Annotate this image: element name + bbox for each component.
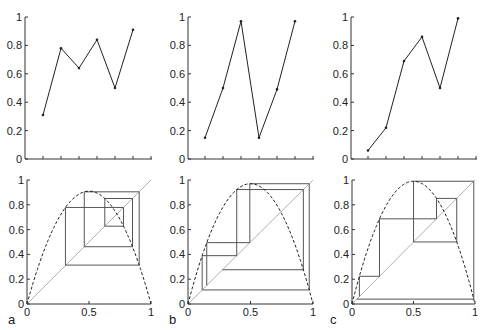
data-point <box>96 38 99 41</box>
y-tick-label: 0.4 <box>333 96 348 108</box>
y-tick-label: 0.4 <box>334 248 349 260</box>
panel-label-c: c <box>330 312 337 327</box>
time-series-panel-a: 00.20.40.60.81 <box>7 11 152 165</box>
y-tick-label: 1 <box>342 11 348 23</box>
panel-labels: abc <box>8 312 337 327</box>
y-tick-label: 1 <box>179 11 185 23</box>
data-point <box>42 114 45 117</box>
y-tick-label: 1 <box>343 174 349 186</box>
data-point <box>294 20 297 23</box>
time-series-panel-c: 00.20.40.60.81 <box>333 11 477 165</box>
y-tick-label: 0.2 <box>9 273 24 285</box>
data-line <box>43 30 133 115</box>
data-point <box>403 60 406 63</box>
data-point <box>439 87 442 90</box>
data-point <box>240 20 243 23</box>
y-tick-label: 0.6 <box>333 68 348 80</box>
cobweb-panel-a: 00.20.40.60.8100.51 <box>9 174 154 318</box>
y-tick-label: 0.8 <box>333 39 348 51</box>
y-tick-label: 0 <box>342 153 348 165</box>
x-tick-label: 1 <box>148 306 154 318</box>
y-tick-label: 0.8 <box>9 199 24 211</box>
y-tick-label: 0.6 <box>7 68 22 80</box>
y-tick-label: 0.6 <box>170 68 185 80</box>
panel-label-a: a <box>8 312 16 327</box>
data-point <box>457 17 460 20</box>
time-series-panel-b: 00.20.40.60.81 <box>170 11 314 165</box>
x-tick-label: 0 <box>24 306 30 318</box>
cobweb-panel-c: 00.20.40.60.8100.51 <box>334 174 478 318</box>
data-point <box>222 87 225 90</box>
data-point <box>132 28 135 31</box>
y-tick-label: 0.2 <box>7 125 22 137</box>
data-point <box>204 136 207 139</box>
x-tick-label: 1 <box>310 306 316 318</box>
y-tick-label: 0.8 <box>170 39 185 51</box>
y-tick-label: 1 <box>16 11 22 23</box>
y-tick-label: 0 <box>16 153 22 165</box>
figure: 00.20.40.60.8100.20.40.60.8100.20.40.60.… <box>0 0 483 330</box>
y-tick-label: 0.8 <box>7 39 22 51</box>
x-tick-label: 0.5 <box>406 306 421 318</box>
time-series-panels: 00.20.40.60.8100.20.40.60.8100.20.40.60.… <box>7 11 477 165</box>
x-tick-label: 1 <box>472 306 478 318</box>
y-tick-label: 0.8 <box>334 199 349 211</box>
data-point <box>78 67 81 70</box>
y-tick-label: 0.6 <box>9 224 24 236</box>
x-tick-label: 0 <box>185 306 191 318</box>
y-tick-label: 0.4 <box>7 96 22 108</box>
x-tick-label: 0.5 <box>81 306 96 318</box>
data-point <box>60 47 63 50</box>
data-point <box>276 88 279 91</box>
data-line <box>205 21 295 137</box>
y-tick-label: 0.4 <box>9 248 24 260</box>
y-tick-label: 0.2 <box>333 125 348 137</box>
data-point <box>258 136 261 139</box>
y-tick-label: 0.2 <box>334 273 349 285</box>
panel-label-b: b <box>169 312 176 327</box>
x-tick-label: 0.5 <box>243 306 258 318</box>
y-tick-label: 0.4 <box>170 96 185 108</box>
data-line <box>368 18 458 150</box>
x-tick-label: 0 <box>349 306 355 318</box>
y-tick-label: 0.8 <box>170 199 185 211</box>
y-tick-label: 0.2 <box>170 125 185 137</box>
data-point <box>421 36 424 39</box>
data-point <box>367 149 370 152</box>
cobweb-panel-b: 00.20.40.60.8100.51 <box>170 174 316 318</box>
y-tick-label: 0.2 <box>170 273 185 285</box>
y-tick-label: 0.4 <box>170 248 185 260</box>
cobweb-panels: 00.20.40.60.8100.5100.20.40.60.8100.5100… <box>9 174 478 318</box>
y-tick-label: 1 <box>18 174 24 186</box>
y-tick-label: 0 <box>179 153 185 165</box>
y-tick-label: 1 <box>179 174 185 186</box>
y-tick-label: 0.6 <box>170 224 185 236</box>
data-point <box>385 126 388 129</box>
data-point <box>114 87 117 90</box>
y-tick-label: 0.6 <box>334 224 349 236</box>
